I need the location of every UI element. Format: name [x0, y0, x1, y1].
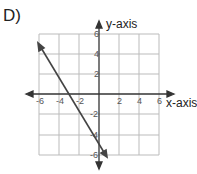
svg-text:-6: -6 — [90, 150, 98, 160]
svg-text:-2: -2 — [90, 109, 98, 119]
x-axis-left-arrow-icon — [26, 91, 33, 97]
svg-text:2: 2 — [94, 69, 99, 79]
line-arrow-end-icon — [101, 150, 107, 157]
svg-text:6: 6 — [157, 96, 162, 106]
data-line — [38, 43, 107, 157]
svg-text:4: 4 — [94, 49, 99, 59]
y-axis-up-arrow-icon — [96, 21, 102, 28]
y-axis-label: y-axis — [106, 17, 137, 31]
y-axis-down-arrow-icon — [96, 162, 102, 169]
coordinate-plane: -6 -4 -2 2 4 6 6 4 2 -2 -4 -6 y-axis x-a… — [0, 0, 197, 174]
svg-text:-2: -2 — [76, 96, 84, 106]
svg-text:-6: -6 — [36, 96, 44, 106]
svg-text:4: 4 — [137, 96, 142, 106]
svg-text:6: 6 — [94, 29, 99, 39]
svg-text:-4: -4 — [56, 96, 64, 106]
svg-text:2: 2 — [117, 96, 122, 106]
x-axis-label: x-axis — [166, 96, 197, 110]
